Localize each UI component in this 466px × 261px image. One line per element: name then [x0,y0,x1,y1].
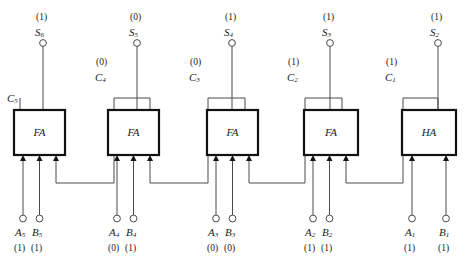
terminal-b2[interactable] [326,215,333,222]
label-c5: C5 [7,92,18,105]
terminal-a5[interactable] [20,215,27,222]
label-c1: C1 [385,71,396,84]
terminal-b1[interactable] [443,215,450,222]
value-b1: (1) [438,243,449,253]
block-label-fa-2: FA [324,126,337,138]
terminal-s4[interactable] [229,40,236,47]
value-c3: (0) [190,57,201,67]
terminal-b4[interactable] [130,215,137,222]
label-a5: A5 [15,226,25,239]
label-a1: A1 [405,226,415,239]
adder-diagram-canvas: FA FA [0,0,466,261]
value-b4: (1) [125,243,136,253]
label-a3: A3 [208,226,218,239]
block-label-fa-3: FA [225,126,238,138]
value-c4: (0) [96,57,107,67]
block-label-ha-1: HA [421,126,437,138]
value-s2: (1) [431,12,442,22]
label-s3: S3 [322,26,331,39]
block-label-fa-4: FA [126,126,139,138]
value-b5: (1) [31,243,42,253]
label-s6: S6 [35,26,44,39]
value-a2: (1) [304,243,315,253]
label-s5: S5 [129,26,138,39]
terminal-a1[interactable] [409,215,416,222]
terminal-a3[interactable] [213,215,220,222]
value-a4: (0) [108,243,119,253]
label-b5: B5 [32,226,42,239]
label-s2: S2 [430,26,439,39]
terminal-b3[interactable] [229,215,236,222]
label-b2: B2 [322,226,332,239]
label-b4: B4 [126,226,136,239]
terminal-s1[interactable] [435,40,442,47]
value-s4: (1) [225,12,236,22]
terminal-s3[interactable] [327,40,334,47]
terminal-a2[interactable] [310,215,317,222]
value-s3: (1) [323,12,334,22]
value-b3: (0) [224,243,235,253]
block-label-fa-5: FA [32,126,45,138]
terminal-b5[interactable] [36,215,43,222]
label-b3: B3 [225,226,235,239]
label-a4: A4 [109,226,119,239]
value-s5: (0) [130,12,141,22]
label-c3: C3 [189,71,200,84]
label-s4: S4 [224,26,233,39]
value-a5: (1) [14,243,25,253]
stage-1-group: HA [402,40,456,222]
value-s6: (1) [36,12,47,22]
value-b2: (1) [321,243,332,253]
value-a1: (1) [404,243,415,253]
terminal-a4[interactable] [114,215,121,222]
label-b1: B1 [439,226,449,239]
terminal-s6[interactable] [40,40,47,47]
label-c2: C2 [287,71,298,84]
label-c4: C4 [95,71,106,84]
value-c1: (1) [386,57,397,67]
circuit-schematic: FA FA [0,0,466,261]
label-a2: A2 [305,226,315,239]
terminal-s5[interactable] [134,40,141,47]
value-a3: (0) [207,243,218,253]
value-c2: (1) [288,57,299,67]
